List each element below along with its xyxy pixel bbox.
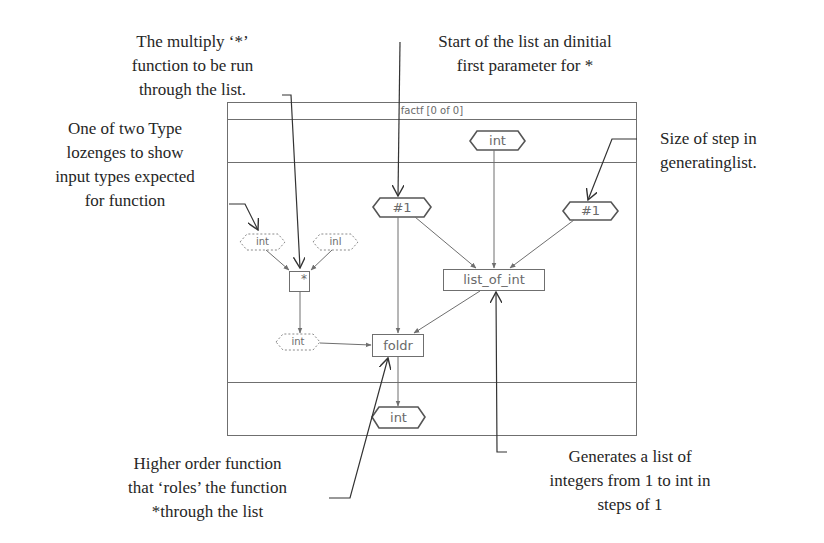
multiply-function-box[interactable]: * [289,271,310,292]
start-constant-label: #1 [373,198,431,217]
type-int-left-label: int [240,234,285,250]
list-of-int-function-box[interactable]: list_of_int [443,269,545,291]
multiply-function-label: * [301,272,307,286]
input-int-label: int [470,131,525,150]
callout-generates-list [496,292,507,452]
callout-start-of-list [398,42,400,196]
callout-type-lozenges [229,204,258,230]
callout-step-size [588,139,637,200]
output-int-label: int [372,407,425,428]
list-of-int-function-label: list_of_int [463,272,525,287]
type-int-result-label: int [276,334,320,350]
foldr-function-box[interactable]: foldr [372,334,424,357]
diagram-connections [0,0,824,543]
step-constant-label: #1 [563,202,618,220]
type-int-right-label: inl [313,234,358,250]
foldr-function-label: foldr [383,338,413,353]
